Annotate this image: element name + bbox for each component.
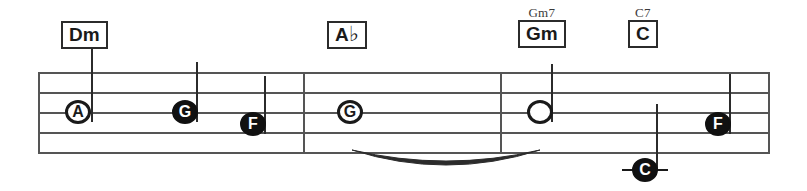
note-letter-f2: F xyxy=(713,116,723,132)
staff-line-5 xyxy=(38,152,770,154)
note-a[interactable]: A xyxy=(65,100,91,124)
note-letter-a: A xyxy=(72,104,84,120)
note-letter-g2: G xyxy=(344,104,356,120)
note-open-whole[interactable] xyxy=(527,100,553,124)
stem-note-c-low xyxy=(656,104,658,170)
staff: A G F G C F xyxy=(0,0,807,191)
note-f2[interactable]: F xyxy=(705,112,731,136)
note-g1[interactable]: G xyxy=(172,100,198,124)
staff-line-4 xyxy=(38,132,770,134)
staff-line-2 xyxy=(38,92,770,94)
staff-line-1 xyxy=(38,72,770,74)
note-f1[interactable]: F xyxy=(240,112,266,136)
note-letter-f1: F xyxy=(248,116,258,132)
note-letter-c-low: C xyxy=(639,162,651,178)
barline-2 xyxy=(500,72,502,154)
note-c-low[interactable]: C xyxy=(632,158,658,182)
barline-start xyxy=(38,72,40,154)
barline-end xyxy=(768,72,770,154)
barline-1 xyxy=(303,72,305,154)
staff-line-3 xyxy=(38,112,770,114)
slur-icon xyxy=(0,0,807,191)
stem-note-a xyxy=(91,48,93,122)
note-g2[interactable]: G xyxy=(337,100,363,124)
music-notation-sheet: Dm A♭ Gm7 Gm C7 C xyxy=(0,0,807,191)
note-letter-g1: G xyxy=(179,104,191,120)
